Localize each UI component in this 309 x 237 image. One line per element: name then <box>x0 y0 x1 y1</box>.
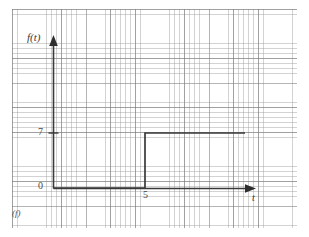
y-axis <box>49 35 58 189</box>
x-axis-label: t <box>252 192 255 203</box>
y-axis-label: f(t) <box>27 31 40 43</box>
origin-label: 0 <box>38 180 43 191</box>
x-tick-label-5: 5 <box>143 189 148 200</box>
y-tick-label-7: 7 <box>38 126 43 137</box>
figure-panel: f(t) t 7 0 5 (f) <box>0 0 309 237</box>
step-function-curve <box>54 133 246 188</box>
subfigure-label: (f) <box>12 208 21 218</box>
plot-drawing-layer <box>0 0 309 237</box>
